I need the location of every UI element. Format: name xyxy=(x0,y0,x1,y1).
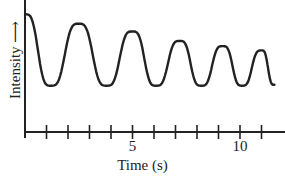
x-tick-label: 5 xyxy=(129,138,137,155)
arrow-up-icon: ⟶ xyxy=(7,21,23,43)
x-axis-label: Time (s) xyxy=(0,157,285,174)
x-tick-label: 10 xyxy=(233,138,248,155)
intensity-curve xyxy=(25,14,274,85)
y-axis-label: Intensity ⟶ xyxy=(7,15,23,105)
